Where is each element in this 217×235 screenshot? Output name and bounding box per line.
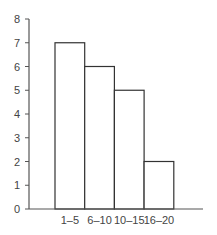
histogram-chart: 012345678 1–56–1010–1516–20	[0, 0, 217, 235]
x-category-label: 6–10	[87, 214, 111, 226]
y-tick-label: 3	[14, 132, 20, 144]
y-tick-label: 5	[14, 84, 20, 96]
y-tick-label: 0	[14, 203, 20, 215]
y-tick-label: 8	[14, 13, 20, 25]
bar-1	[55, 43, 85, 209]
bar-4	[144, 162, 174, 210]
bars	[55, 43, 174, 209]
y-tick-label: 2	[14, 156, 20, 168]
bar-2	[85, 67, 115, 210]
y-tick-label: 6	[14, 61, 20, 73]
y-axis: 012345678	[14, 13, 29, 215]
x-category-label: 1–5	[61, 214, 79, 226]
x-category-label: 10–15	[114, 214, 145, 226]
x-category-label: 16–20	[144, 214, 175, 226]
y-tick-label: 4	[14, 108, 20, 120]
y-tick-label: 1	[14, 179, 20, 191]
bar-3	[114, 90, 144, 209]
x-axis: 1–56–1010–1516–20	[29, 209, 203, 226]
y-tick-label: 7	[14, 37, 20, 49]
